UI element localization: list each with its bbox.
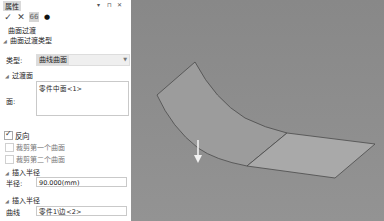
collapse-triangle-icon[interactable]: ◢ [3, 38, 7, 44]
section-label: 过渡面 [12, 72, 33, 80]
section-label: 插入半径 [12, 169, 40, 177]
chevron-down-icon: ▼ [123, 56, 127, 62]
section-insert-radius-2[interactable]: ◢插入半径 [5, 195, 40, 205]
cancel-x-icon[interactable]: ✕ [16, 12, 26, 22]
type-select-value: 曲线曲面 [37, 55, 69, 65]
reverse-label: 反向 [15, 130, 29, 141]
panel-title: 属性 [3, 1, 21, 11]
close-icon[interactable]: ✕ [117, 1, 122, 8]
section-label: 曲面过渡类型 [10, 37, 52, 45]
trim-first-checkbox[interactable] [5, 143, 14, 152]
model-geometry [131, 0, 384, 221]
apply-dot-icon[interactable]: ● [42, 12, 52, 22]
confirm-check-icon[interactable]: ✓ [3, 12, 13, 22]
preview-glasses-icon[interactable]: 66 [29, 12, 39, 22]
section-insert-radius-1[interactable]: ◢插入半径 [5, 167, 40, 177]
face-label: 面: [6, 96, 15, 106]
face-list-item[interactable]: 零件中面<1> [39, 83, 82, 93]
type-select[interactable]: 曲线曲面 ▼ [36, 54, 130, 66]
collapse-triangle-icon[interactable]: ◢ [5, 73, 9, 79]
section-surface-transition: 曲面过渡 [8, 25, 36, 35]
trim-second-label: 裁剪第二个曲面 [16, 154, 65, 164]
pin-dropdown-icon[interactable]: ▾ [97, 1, 100, 8]
radius-input[interactable]: 90.000(mm) [36, 177, 127, 187]
section-label: 插入半径 [12, 197, 40, 205]
section-transition-type[interactable]: ◢曲面过渡类型 [3, 35, 52, 45]
face-selection-list[interactable]: 零件中面<1> [36, 81, 129, 116]
collapse-triangle-icon[interactable]: ◢ [5, 170, 9, 176]
curve-input[interactable]: 零件1\边<2> [36, 206, 127, 216]
trim-first-label: 裁剪第一个曲面 [16, 142, 65, 152]
panel-titlebar: 属性 ▾ ⊓ ✕ [0, 0, 131, 11]
reverse-checkbox[interactable] [4, 131, 13, 140]
float-icon[interactable]: ⊓ [107, 1, 112, 8]
3d-viewport[interactable] [131, 0, 384, 221]
panel-toolbar: ✓ ✕ 66 ● [3, 11, 52, 23]
trim-second-checkbox[interactable] [5, 155, 14, 164]
type-label: 类型: [6, 55, 22, 65]
radius-label: 半径: [6, 178, 22, 188]
curve-label: 曲线 [6, 207, 20, 217]
collapse-triangle-icon[interactable]: ◢ [5, 198, 9, 204]
properties-panel: 属性 ▾ ⊓ ✕ ✓ ✕ 66 ● 曲面过渡 ◢曲面过渡类型 类型: 曲线曲面 … [0, 0, 132, 221]
section-transition-face[interactable]: ◢过渡面 [5, 70, 33, 80]
section-label: 曲面过渡 [8, 27, 36, 35]
